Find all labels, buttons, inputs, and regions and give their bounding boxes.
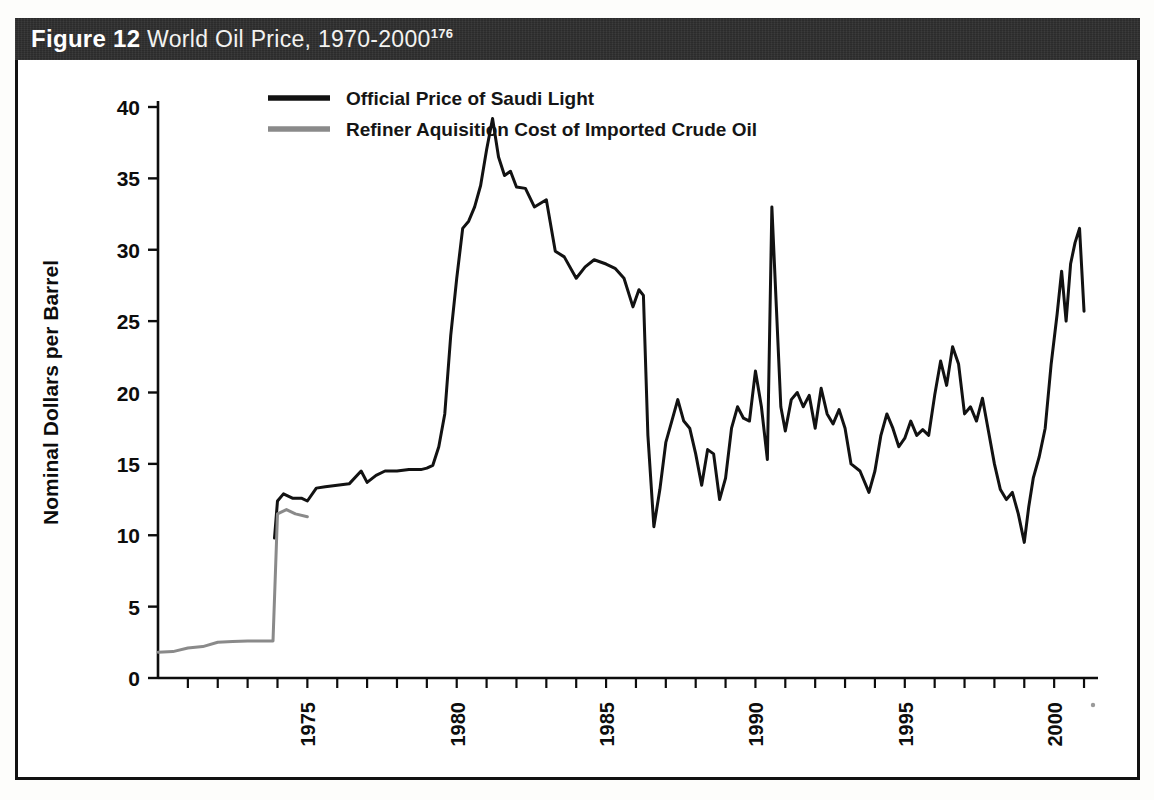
figure-root: Figure 12 World Oil Price, 1970-2000176 … — [0, 0, 1154, 800]
y-tick-label: 15 — [117, 453, 141, 476]
figure-title: Figure 12 World Oil Price, 1970-2000176 — [31, 25, 453, 53]
y-tick-label: 35 — [117, 167, 141, 190]
x-tick-label: 1980 — [447, 702, 469, 747]
x-tick-label: 1985 — [596, 702, 618, 747]
oil-price-line-chart: Official Price of Saudi LightRefiner Aqu… — [18, 62, 1137, 777]
x-tick-label: 1975 — [297, 702, 319, 747]
figure-footnote-marker: 176 — [431, 26, 454, 41]
legend-label: Official Price of Saudi Light — [346, 88, 595, 109]
y-tick-label: 5 — [128, 596, 140, 619]
chart-legend: Official Price of Saudi LightRefiner Aqu… — [268, 88, 757, 140]
x-tick-label: 2000 — [1044, 702, 1066, 747]
scan-speck — [1091, 703, 1095, 707]
figure-number: Figure 12 — [31, 25, 140, 52]
y-tick-label: 0 — [128, 667, 140, 690]
y-tick-label: 30 — [117, 239, 140, 262]
x-axis: 197519801985199019952000 — [158, 678, 1098, 747]
y-tick-label: 25 — [117, 310, 141, 333]
series-line-saudi-light — [275, 118, 1085, 542]
figure-title-bar: Figure 12 World Oil Price, 1970-2000176 — [15, 18, 1140, 60]
y-tick-label: 40 — [117, 96, 140, 119]
y-tick-label: 20 — [117, 382, 140, 405]
series-line-refiner-acquisition — [158, 510, 307, 653]
x-tick-label: 1995 — [895, 702, 917, 747]
x-tick-label: 1990 — [745, 702, 767, 747]
chart-plot-area: Official Price of Saudi LightRefiner Aqu… — [18, 62, 1137, 777]
chart-series — [158, 118, 1084, 652]
y-axis-title: Nominal Dollars per Barrel — [39, 260, 62, 525]
figure-caption: World Oil Price, 1970-2000 — [147, 26, 431, 52]
y-axis-title-text: Nominal Dollars per Barrel — [39, 260, 62, 525]
legend-label: Refiner Aquisition Cost of Imported Crud… — [346, 119, 757, 140]
y-axis: 0510152025303540 — [117, 96, 158, 690]
y-tick-label: 10 — [117, 524, 140, 547]
